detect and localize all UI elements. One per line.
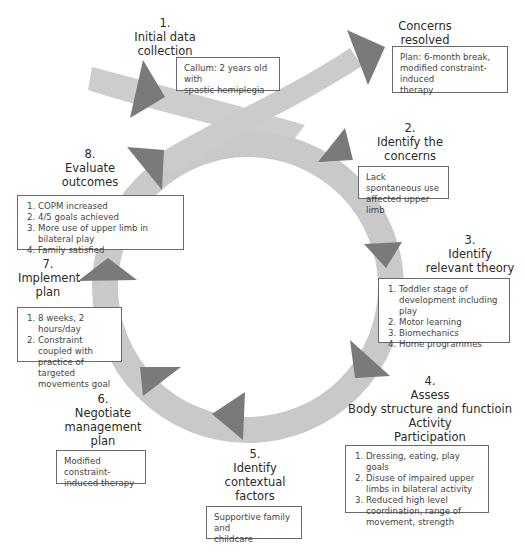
box-line: affected upper limb — [366, 194, 441, 216]
title-line: collection — [110, 44, 220, 58]
step-number: 5. — [215, 447, 295, 461]
step-3-list: Toddler stage of development including p… — [386, 284, 502, 350]
title-line: Negotiate — [60, 406, 146, 420]
box-line: spastic hemiplegia — [184, 85, 272, 96]
list-item: More use of upper limb in bilateral play — [38, 223, 176, 245]
box-line: modified constraint-induced — [400, 63, 500, 85]
list-item: Family satisfied — [38, 245, 176, 256]
title-line: Identify the — [360, 135, 460, 149]
list-item: COPM increased — [38, 201, 176, 212]
step-4-list: Dressing, eating, play goals Disuse of i… — [353, 451, 481, 528]
step-number: 1. — [110, 16, 220, 30]
list-item: Biomechanics — [399, 328, 502, 339]
list-item: Reduced high level coordination, range o… — [366, 495, 481, 528]
step-7-list: 8 weeks, 2 hours/day Constraint coupled … — [25, 313, 114, 390]
list-item: Motor learning — [399, 317, 502, 328]
list-item: Disuse of impaired upper limbs in bilate… — [366, 473, 481, 495]
list-item: Toddler stage of development including p… — [399, 284, 502, 317]
step-7-box: 8 weeks, 2 hours/day Constraint coupled … — [17, 307, 122, 362]
step-1-title: 1. Initial data collection — [110, 16, 220, 58]
arrowhead-step2-icon — [318, 128, 353, 162]
step-5-title: 5. Identify contextual factors — [215, 447, 295, 503]
box-line: Supportive family and — [214, 512, 294, 534]
box-line: therapy — [400, 85, 500, 96]
title-line: concerns — [360, 149, 460, 163]
title-line: relevant theory — [420, 261, 520, 275]
step-4-box: Dressing, eating, play goals Disuse of i… — [345, 445, 489, 513]
step-2-box: Lack spontaneous use affected upper limb — [358, 166, 449, 199]
concerns-resolved-title: Concerns resolved — [385, 19, 465, 47]
list-item: Constraint coupled with practice of targ… — [38, 335, 114, 390]
step-number: 2. — [360, 121, 460, 135]
list-item: 4/5 goals achieved — [38, 212, 176, 223]
step-8-title: 8. Evaluate outcomes — [50, 147, 130, 189]
title-line: contextual — [215, 475, 295, 489]
list-item: Home programmes — [399, 339, 502, 350]
step-7-title: 7. Implement plan — [18, 257, 78, 299]
title-line: Body structure and functioin — [340, 402, 520, 416]
box-line: induced therapy — [64, 478, 138, 489]
step-6-title: 6. Negotiate management plan — [60, 392, 146, 448]
title-line: Participation — [340, 430, 520, 444]
title-line: Implement — [18, 271, 78, 285]
box-line: Modified constraint- — [64, 456, 138, 478]
step-6-box: Modified constraint- induced therapy — [56, 450, 146, 484]
title-line: outcomes — [50, 175, 130, 189]
box-line: Lack spontaneous use — [366, 172, 441, 194]
title-line: Concerns — [385, 19, 465, 33]
title-line: Activity — [340, 416, 520, 430]
title-line: resolved — [385, 33, 465, 47]
step-1-box: Callum: 2 years old with spastic hemiple… — [176, 57, 280, 91]
step-number: 7. — [18, 257, 78, 271]
step-number: 4. — [340, 374, 520, 388]
title-line: factors — [215, 489, 295, 503]
title-line: management — [60, 420, 146, 434]
step-number: 3. — [420, 233, 520, 247]
step-number: 8. — [50, 147, 130, 161]
title-line: Identify — [420, 247, 520, 261]
box-line: childcare — [214, 534, 294, 545]
title-line: plan — [18, 285, 78, 299]
step-3-box: Toddler stage of development including p… — [378, 278, 510, 343]
step-5-box: Supportive family and childcare — [206, 506, 302, 539]
concerns-resolved-box: Plan: 6-month break, modified constraint… — [392, 46, 508, 93]
title-line: Evaluate — [50, 161, 130, 175]
step-3-title: 3. Identify relevant theory — [420, 233, 520, 275]
title-line: Initial data — [110, 30, 220, 44]
list-item: 8 weeks, 2 hours/day — [38, 313, 114, 335]
list-item: Dressing, eating, play goals — [366, 451, 481, 473]
step-4-title: 4. Assess Body structure and functioin A… — [340, 374, 520, 444]
arrowhead-step7-icon — [78, 258, 137, 281]
step-2-title: 2. Identify the concerns — [360, 121, 460, 163]
step-8-box: COPM increased 4/5 goals achieved More u… — [17, 195, 184, 250]
title-line: plan — [60, 434, 146, 448]
step-8-list: COPM increased 4/5 goals achieved More u… — [25, 201, 176, 256]
title-line: Identify — [215, 461, 295, 475]
step-number: 6. — [60, 392, 146, 406]
box-line: Plan: 6-month break, — [400, 52, 500, 63]
box-line: Callum: 2 years old with — [184, 63, 272, 85]
title-line: Assess — [340, 388, 520, 402]
